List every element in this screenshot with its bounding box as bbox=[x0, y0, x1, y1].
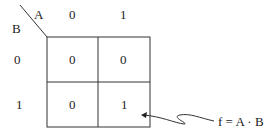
cell-b1-a1: 1 bbox=[121, 97, 128, 112]
column-header-0: 0 bbox=[69, 7, 76, 22]
row-header-0: 0 bbox=[14, 52, 21, 67]
cell-b0-a0: 0 bbox=[69, 52, 76, 67]
function-annotation: f = A · B bbox=[218, 114, 264, 129]
row-variable-label: B bbox=[12, 21, 21, 36]
cell-b1-a0: 0 bbox=[69, 97, 76, 112]
column-header-1: 1 bbox=[120, 7, 127, 22]
karnaugh-map-diagram: A B 0 1 0 1 0 0 0 1 f = A · B bbox=[0, 0, 274, 137]
row-header-1: 1 bbox=[16, 97, 23, 112]
arrow-head-icon bbox=[141, 112, 147, 118]
column-variable-label: A bbox=[34, 7, 44, 22]
cell-b0-a1: 0 bbox=[120, 52, 127, 67]
annotation-arrow bbox=[143, 115, 214, 124]
